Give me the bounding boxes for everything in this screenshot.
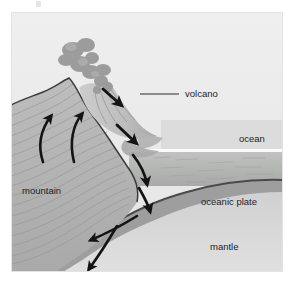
figure-root: volcano ocean oceanic plate mantle mount… <box>0 0 293 287</box>
top-edge-speck-artifact <box>36 1 41 7</box>
label-ocean: ocean <box>239 133 265 144</box>
label-oceanic-plate: oceanic plate <box>201 196 257 207</box>
label-mountain: mountain <box>22 185 61 196</box>
subduction-cross-section-svg: volcano ocean oceanic plate mantle mount… <box>11 12 283 272</box>
label-volcano: volcano <box>185 88 218 99</box>
label-mantle: mantle <box>210 241 239 252</box>
subduction-diagram-panel: volcano ocean oceanic plate mantle mount… <box>11 12 283 272</box>
